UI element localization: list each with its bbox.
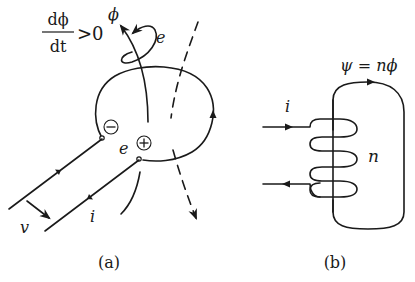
- rate-condition: dϕ dt >0: [42, 10, 104, 56]
- caption-b: (b): [324, 253, 347, 272]
- positive-terminal-symbol: [137, 136, 151, 150]
- current-label-a: i: [90, 207, 95, 226]
- emf-curl-arrow: [122, 26, 157, 63]
- emf-label-terminals: e: [119, 139, 128, 158]
- input-current-arrow: [285, 124, 293, 131]
- figure-canvas: dϕ dt >0 ϕ e: [0, 0, 415, 282]
- conductor-loop: [96, 67, 214, 161]
- dashed-path-lower: [173, 150, 196, 218]
- caption-a: (a): [98, 253, 120, 272]
- dashed-path-upper: [171, 22, 198, 118]
- velocity-label: v: [20, 218, 29, 237]
- lead-wire-curve: [121, 172, 140, 214]
- rate-relation: >0: [77, 23, 104, 44]
- negative-terminal-symbol: [104, 120, 118, 134]
- output-current-arrow: [282, 181, 290, 188]
- figure-a: dϕ dt >0 ϕ e: [9, 5, 217, 272]
- turns-label: n: [368, 146, 379, 166]
- rate-numerator: dϕ: [47, 10, 68, 29]
- current-label-b: i: [285, 97, 290, 116]
- flux-linkage-equation: ψ = nϕ: [340, 56, 397, 75]
- flux-arrow: [121, 26, 148, 122]
- coil: [263, 119, 357, 197]
- figure-b: ψ = nϕ i n (b): [263, 56, 404, 272]
- velocity-arrow: [27, 201, 49, 218]
- flux-label: ϕ: [108, 5, 119, 24]
- flux-loop-arrow: [367, 79, 375, 86]
- rate-denominator: dt: [50, 37, 67, 56]
- loop-direction-arrow: [210, 110, 217, 118]
- emf-label-top: e: [156, 28, 165, 47]
